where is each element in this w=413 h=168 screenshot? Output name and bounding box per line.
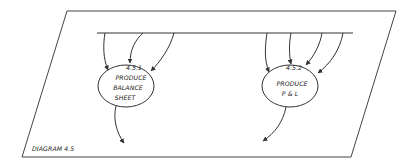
diagram-caption: DIAGRAM 4.5 [32, 145, 74, 152]
process-id: 4.5.2 [286, 64, 302, 71]
process-label-line-3: SHEET [115, 94, 137, 101]
process-id: 4.5.1 [126, 64, 142, 71]
diagram-canvas: 4.5.1 PRODUCE BALANCE SHEET 4.5.2 PRODUC… [0, 0, 413, 168]
process-label-line-1: PRODUCE [115, 74, 146, 81]
process-label-line-1: PRODUCE [276, 80, 307, 87]
process-label-line-2: P & L [282, 90, 299, 97]
process-label-line-2: BALANCE [113, 84, 143, 91]
